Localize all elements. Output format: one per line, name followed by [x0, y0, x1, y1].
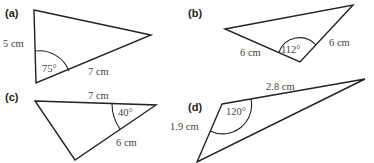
diagram-label-b: (b): [188, 7, 202, 19]
angle-label-a: 75°: [42, 63, 57, 74]
angle-label-c: 40°: [118, 107, 133, 118]
side-label-a-1: 5 cm: [3, 38, 24, 49]
triangle-a: (a) 5 cm 75° 7 cm: [3, 7, 151, 83]
side-label-c-1: 7 cm: [88, 90, 109, 101]
diagram-label-a: (a): [5, 7, 19, 19]
angle-label-b: 112°: [281, 44, 301, 55]
triangle-b: (b) 6 cm 112° 6 cm: [188, 5, 353, 62]
side-label-c-2: 6 cm: [116, 137, 137, 148]
side-label-d-1: 2.8 cm: [266, 81, 295, 92]
side-label-b-2: 6 cm: [329, 37, 350, 48]
diagram-label-c: (c): [5, 91, 19, 103]
side-label-a-2: 7 cm: [88, 66, 109, 77]
triangle-c: (c) 7 cm 40° 6 cm: [5, 90, 156, 160]
triangle-c-shape: [35, 101, 156, 160]
side-label-b-1: 6 cm: [240, 47, 261, 58]
diagram-label-d: (d): [188, 101, 202, 113]
triangle-d: (d) 2.8 cm 1.9 cm 120°: [170, 79, 365, 162]
triangles-figure: (a) 5 cm 75° 7 cm (b) 6 cm 112° 6 cm (c)…: [0, 0, 374, 163]
angle-label-d: 120°: [226, 106, 246, 117]
side-label-d-2: 1.9 cm: [170, 121, 199, 132]
